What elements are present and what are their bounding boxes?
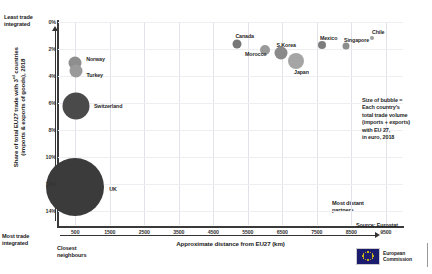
gridline-vertical: [144, 22, 145, 225]
plot-area: UKSwitzerlandNorwayTurkeyCanadaMoroccoS.…: [58, 22, 403, 225]
bubble-label-japan: Japan: [294, 69, 309, 75]
x-tick-label: 1500: [104, 229, 115, 235]
logo-line-2: Commission: [383, 256, 412, 262]
bubble-singapore: [343, 43, 350, 50]
bubble-label-turkey: Turkey: [87, 72, 103, 78]
y-tick-label: 2%: [30, 46, 56, 52]
gridline-vertical: [213, 22, 214, 225]
bubble-chile: [370, 36, 374, 40]
x-tick-label: 3500: [173, 229, 184, 235]
bubble-label-s-korea: S.Korea: [277, 42, 296, 48]
x-tick-label: 5500: [242, 229, 253, 235]
x-tick-label: 2500: [139, 229, 150, 235]
y-axis-ticks: 0%2%4%6%8%10%12%14%: [26, 22, 56, 225]
x-tick-label: 8500: [346, 229, 357, 235]
annotation-most-integrated: Most tradeintegrated: [2, 233, 50, 247]
x-axis-line: [57, 226, 404, 228]
gridline-horizontal: [58, 130, 403, 131]
y-tick-label: 14%: [30, 208, 56, 214]
x-axis-title: Approximate distance from EU27 (km): [58, 240, 403, 247]
gridline-horizontal: [58, 211, 403, 212]
bubble-chart: Least tradeintegrated Most tradeintegrat…: [0, 0, 432, 274]
x-tick-label: 4500: [208, 229, 219, 235]
gridline-vertical: [110, 22, 111, 225]
x-tick-label: 6500: [277, 229, 288, 235]
gridline-horizontal: [58, 49, 403, 50]
note-line-1: Size of bubble =: [362, 97, 430, 104]
note-line-4: (imports + exports): [362, 119, 430, 126]
bubble-japan: [288, 53, 304, 69]
bubble-s-korea: [274, 47, 287, 60]
logo-divider: [427, 243, 429, 267]
y-tick-label: 4%: [30, 73, 56, 79]
gridline-vertical: [351, 22, 352, 225]
note-line-5: with EU 27,: [362, 127, 430, 134]
bubble-label-canada: Canada: [235, 33, 254, 39]
logo-text: European Commission: [383, 250, 412, 262]
bubble-turkey: [69, 64, 82, 77]
annotation-closest-neighbours: Closestneighbours: [57, 245, 109, 259]
gridline-vertical: [179, 22, 180, 225]
bubble-label-switzerland: Switzerland: [94, 103, 122, 109]
y-tick-label: 12%: [30, 181, 56, 187]
eu-flag-icon: [356, 248, 380, 265]
gridline-horizontal: [58, 157, 403, 158]
note-line-2: Each country's: [362, 104, 430, 111]
gridline-horizontal: [58, 22, 403, 23]
note-line-6: in euro, 2018: [362, 134, 430, 141]
bubble-size-note: Size of bubble = Each country's total tr…: [362, 97, 430, 142]
y-tick-label: 6%: [30, 100, 56, 106]
x-tick-label: 500: [71, 229, 79, 235]
x-tick-label: 7500: [311, 229, 322, 235]
bubble-switzerland: [62, 92, 89, 119]
gridline-horizontal: [58, 76, 403, 77]
y-axis-title: Share of total EU27 trade with 3rd count…: [12, 27, 26, 187]
european-commission-logo: European Commission: [356, 243, 428, 269]
bubble-label-chile: Chile: [372, 29, 384, 35]
y-tick-label: 0%: [30, 19, 56, 25]
bubble-label-morocco: Morocco: [245, 51, 266, 57]
y-tick-label: 10%: [30, 154, 56, 160]
y-tick-label: 8%: [30, 127, 56, 133]
gridline-vertical: [317, 22, 318, 225]
bubble-label-mexico: Mexico: [320, 35, 337, 41]
bubble-mexico: [318, 41, 326, 49]
bubble-label-uk: UK: [109, 186, 116, 192]
bubble-canada: [233, 39, 242, 48]
bubble-label-singapore: Singapore: [344, 37, 369, 43]
x-tick-label: 9500: [380, 229, 391, 235]
source-label: Source: Eurostat: [356, 222, 398, 228]
bubble-label-norway: Norway: [86, 56, 105, 62]
note-line-3: total trade volume: [362, 112, 430, 119]
